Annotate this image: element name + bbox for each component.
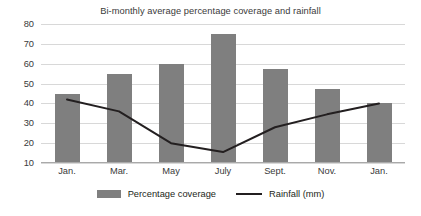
x-tick-label: Jan. <box>370 166 388 176</box>
x-tick-label: May <box>162 166 180 176</box>
y-tick-label: 10 <box>24 158 34 168</box>
y-tick-label: 20 <box>24 138 34 148</box>
y-tick-label: 70 <box>24 39 34 49</box>
y-tick-label: 50 <box>24 79 34 89</box>
x-axis: Jan.Mar.MayJulySept.Nov.Jan. <box>41 166 405 182</box>
gridline <box>41 163 405 164</box>
line-series-rainfall <box>41 24 405 163</box>
bar-swatch-icon <box>97 190 121 198</box>
line-swatch-icon <box>236 193 262 195</box>
x-tick-label: July <box>215 166 232 176</box>
y-axis: 8070605040302010 <box>0 24 38 163</box>
legend-label-rainfall: Rainfall (mm) <box>269 189 324 199</box>
y-tick-label: 80 <box>24 19 34 29</box>
x-tick-label: Nov. <box>318 166 336 176</box>
x-axis-line <box>41 162 405 163</box>
legend-item-rainfall: Rainfall (mm) <box>236 189 324 199</box>
legend-item-percentage-coverage: Percentage coverage <box>97 189 216 199</box>
x-tick-label: Mar. <box>110 166 128 176</box>
y-tick-label: 40 <box>24 98 34 108</box>
chart-title: Bi-monthly average percentage coverage a… <box>0 6 421 16</box>
legend-label-percentage-coverage: Percentage coverage <box>128 189 216 199</box>
rainfall-line-path <box>67 99 379 152</box>
y-tick-label: 60 <box>24 59 34 69</box>
x-tick-label: Jan. <box>58 166 76 176</box>
chart-legend: Percentage coverage Rainfall (mm) <box>0 189 421 199</box>
chart-figure: Bi-monthly average percentage coverage a… <box>0 0 421 216</box>
plot-area <box>41 24 405 163</box>
x-tick-label: Sept. <box>264 166 286 176</box>
y-tick-label: 30 <box>24 118 34 128</box>
